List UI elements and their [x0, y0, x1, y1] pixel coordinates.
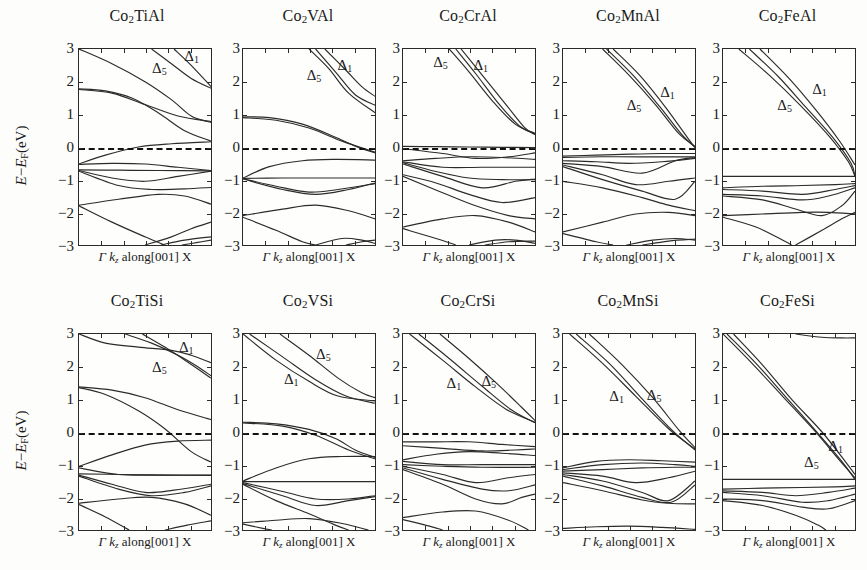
y-tick-label: −1	[692, 458, 720, 473]
y-tick-label: −1	[212, 458, 240, 473]
y-tick-label: −2	[532, 491, 560, 506]
x-tick	[355, 526, 356, 530]
y-tick	[207, 214, 211, 215]
y-tick-label: 1	[532, 392, 560, 407]
y-tick-label: −1	[372, 173, 400, 188]
y-tick	[563, 367, 567, 368]
x-tick	[355, 49, 356, 53]
x-axis-label: Γ kz along[001] X	[562, 250, 696, 265]
delta5-label: Δ5	[316, 347, 331, 363]
band-curve	[403, 216, 535, 232]
band-curve	[723, 184, 855, 188]
band-curve	[403, 176, 535, 218]
y-tick	[207, 82, 211, 83]
y-tick	[563, 82, 567, 83]
band-curve	[403, 162, 535, 168]
band-curve	[723, 486, 855, 489]
x-tick	[745, 334, 746, 338]
delta5-label: Δ5	[433, 55, 448, 71]
y-tick-label: 0	[692, 140, 720, 155]
y-tick-label: −1	[532, 458, 560, 473]
delta1-label: Δ1	[447, 376, 462, 392]
band-structure-figure: Co2TiAl3210−1−2−3E−EF(eV)Δ5Δ1Γ kz along[…	[0, 0, 867, 570]
x-tick	[332, 526, 333, 530]
y-tick-label: 0	[532, 140, 560, 155]
x-tick	[652, 49, 653, 53]
y-tick-label: 1	[692, 392, 720, 407]
x-tick	[835, 241, 836, 245]
delta5-label: Δ5	[627, 98, 642, 114]
y-tick	[403, 433, 407, 434]
x-tick	[425, 241, 426, 245]
y-tick	[403, 115, 407, 116]
y-tick	[723, 82, 727, 83]
y-tick	[851, 82, 855, 83]
band-panel-co2tisi: Co2TiSi3210−1−2−3E−EF(eV)Δ5Δ1Γ kz along[…	[0, 285, 228, 570]
x-tick	[790, 526, 791, 530]
x-tick	[470, 334, 471, 338]
band-curve	[727, 334, 855, 479]
band-curve	[796, 334, 855, 338]
y-tick-label: 2	[692, 359, 720, 374]
y-tick-label: 3	[692, 41, 720, 56]
y-tick-label: 1	[372, 107, 400, 122]
y-tick-label: 0	[212, 425, 240, 440]
band-curve	[403, 466, 535, 482]
x-tick	[448, 241, 449, 245]
y-tick	[851, 367, 855, 368]
y-tick-label: 3	[532, 41, 560, 56]
y-tick-label: 3	[212, 326, 240, 341]
y-tick-label: 1	[532, 107, 560, 122]
panel-title: Co2CrAl	[388, 8, 548, 25]
plot-frame: Δ5Δ1	[78, 333, 212, 531]
x-tick	[470, 526, 471, 530]
band-panel-co2crsi: Co2CrSi3210−1−2−3Δ5Δ1Γ kz along[001] X	[388, 285, 548, 570]
x-tick	[630, 334, 631, 338]
y-tick	[403, 148, 407, 149]
delta1-label: Δ1	[660, 85, 675, 101]
y-tick	[403, 466, 407, 467]
band-curve	[723, 492, 855, 502]
band-curve	[243, 423, 375, 459]
y-tick-label: −2	[212, 491, 240, 506]
band-curve	[403, 452, 535, 460]
y-tick	[79, 115, 83, 116]
y-tick	[723, 400, 727, 401]
delta1-label: Δ1	[828, 439, 843, 455]
x-tick	[124, 334, 125, 338]
x-tick	[470, 49, 471, 53]
y-axis: 3210−1−2−3	[372, 333, 400, 531]
x-tick	[425, 49, 426, 53]
panel-title: Co2TiSi	[54, 293, 220, 310]
band-curve	[563, 467, 695, 471]
y-tick-label: 2	[692, 74, 720, 89]
x-tick	[168, 526, 169, 530]
y-tick-label: 0	[372, 140, 400, 155]
band-curves	[563, 49, 695, 245]
x-tick	[448, 526, 449, 530]
band-curve	[603, 49, 695, 146]
band-curve	[403, 157, 535, 161]
panel-row-1: Co2TiSi3210−1−2−3E−EF(eV)Δ5Δ1Γ kz along[…	[0, 285, 867, 570]
y-tick	[851, 181, 855, 182]
x-tick	[146, 526, 147, 530]
y-axis: 3210−1−2−3	[532, 48, 560, 246]
y-tick-label: 0	[212, 140, 240, 155]
y-tick	[243, 181, 247, 182]
y-tick-label: 2	[46, 359, 74, 374]
y-tick	[79, 400, 83, 401]
y-axis-title: E−EF(eV)	[13, 376, 30, 506]
y-tick-label: 2	[212, 359, 240, 374]
y-axis: 3210−1−2−3	[46, 48, 74, 246]
y-tick-label: −3	[372, 524, 400, 539]
x-tick	[652, 334, 653, 338]
fermi-level-line	[243, 433, 375, 435]
y-tick	[79, 181, 83, 182]
x-tick	[332, 334, 333, 338]
x-tick	[768, 334, 769, 338]
band-curve	[79, 388, 211, 462]
x-tick	[675, 49, 676, 53]
x-tick	[745, 49, 746, 53]
y-tick-label: 3	[46, 41, 74, 56]
band-curve	[280, 334, 375, 398]
